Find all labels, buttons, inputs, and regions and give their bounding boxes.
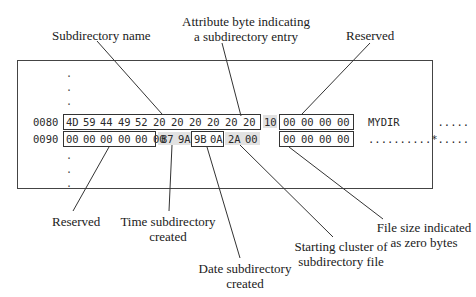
leader-reserved-top	[302, 43, 370, 114]
label-filesize-line1: File size indicated	[372, 220, 476, 235]
leader-cluster	[240, 145, 333, 237]
leader-subdirectory-name	[97, 41, 162, 114]
label-date-line1: Date subdirectory	[195, 261, 295, 276]
label-time-line2: created	[118, 229, 218, 244]
label-cluster-line2: subdirectory file	[291, 254, 391, 269]
leader-file-size	[289, 147, 383, 219]
leader-attribute-byte	[222, 43, 241, 116]
label-date-line2: created	[195, 276, 295, 291]
leader-lines	[0, 0, 476, 297]
label-reserved-bottom: Reserved	[52, 214, 100, 229]
label-time-line1: Time subdirectory	[118, 214, 218, 229]
leader-time	[169, 145, 172, 211]
leader-reserved-bottom	[73, 147, 109, 211]
label-filesize-line2: as zero bytes	[372, 235, 476, 250]
diagram-canvas: Subdirectory name Attribute byte indicat…	[0, 0, 476, 297]
